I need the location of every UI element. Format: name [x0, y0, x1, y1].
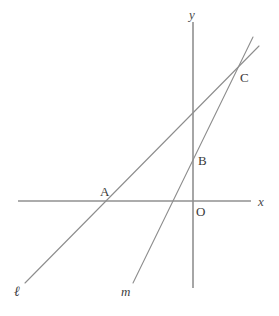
line-l-label: ℓ — [14, 285, 20, 299]
x-axis-label: x — [258, 195, 264, 208]
diagram-canvas — [0, 0, 279, 316]
point-a-label: A — [100, 185, 109, 198]
y-axis-label: y — [189, 8, 195, 21]
origin-label: O — [196, 205, 205, 218]
line-m-label: m — [121, 285, 130, 298]
point-c-label: C — [240, 71, 249, 84]
geometry-diagram: y x O A B C ℓ m — [0, 0, 279, 316]
line-l-stroke — [25, 46, 259, 283]
point-b-label: B — [198, 154, 207, 167]
